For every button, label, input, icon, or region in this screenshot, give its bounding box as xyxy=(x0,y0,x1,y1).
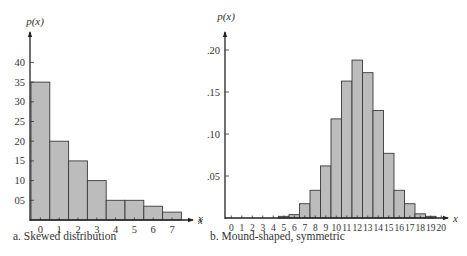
y-tick-label: 10 xyxy=(15,175,26,186)
x-tick-label: 15 xyxy=(384,223,394,233)
skewed-distribution-chart: 012345670510152025303540p(x)x xyxy=(15,15,204,235)
histogram-bar xyxy=(331,119,342,218)
histogram-bar xyxy=(373,110,384,218)
x-tick-label: 18 xyxy=(416,223,426,233)
y-tick-label: .05 xyxy=(207,171,220,182)
x-tick-label: 20 xyxy=(437,223,447,233)
y-tick-label: 20 xyxy=(15,136,26,147)
x-tick-label: 17 xyxy=(405,223,415,233)
x-tick-label: 5 xyxy=(132,224,137,235)
caption-a: a. Skewed distribution xyxy=(13,230,116,242)
x-tick-label: 19 xyxy=(426,223,436,233)
x-tick-label: 12 xyxy=(353,223,363,233)
histogram-bar xyxy=(50,141,69,220)
x-tick-label: 6 xyxy=(151,224,156,235)
histogram-bar xyxy=(384,153,395,218)
histogram-bar xyxy=(310,190,321,218)
y-tick-label: 25 xyxy=(15,116,26,127)
x-axis-arrow-icon xyxy=(443,216,449,220)
histogram-bar xyxy=(31,82,50,220)
stray-x-label: x xyxy=(197,212,203,224)
caption-b: b. Mound-shaped, symmetric xyxy=(210,230,345,242)
x-tick-label: 13 xyxy=(363,223,373,233)
histogram-bar xyxy=(352,60,363,218)
y-axis-title: p(x) xyxy=(216,10,235,23)
histogram-bar xyxy=(321,166,332,218)
y-tick-label: .10 xyxy=(207,129,220,140)
y-tick-label: .15 xyxy=(207,87,220,98)
y-tick-label: .20 xyxy=(207,45,220,56)
histogram-bar xyxy=(125,200,144,220)
histogram-bar xyxy=(106,200,125,220)
x-tick-label: 14 xyxy=(374,223,384,233)
y-tick-label: 35 xyxy=(15,77,26,88)
y-axis-arrow-icon xyxy=(28,31,32,37)
mound-shaped-chart: 01234567891011121314151617181920.05.10.1… xyxy=(207,10,458,233)
x-axis-arrow-icon xyxy=(188,218,194,222)
y-axis-arrow-icon xyxy=(223,31,227,37)
y-tick-label: 15 xyxy=(15,155,26,166)
y-tick-label: 30 xyxy=(15,96,26,107)
histogram-bar xyxy=(342,81,353,218)
histogram-bar xyxy=(69,161,88,220)
histogram-bar xyxy=(87,181,106,220)
y-tick-label: 40 xyxy=(15,57,26,68)
x-axis-title: x xyxy=(452,212,458,224)
y-tick-label: 05 xyxy=(15,195,26,206)
y-axis-title: p(x) xyxy=(25,15,44,28)
histogram-bar xyxy=(394,190,405,218)
x-tick-label: 7 xyxy=(169,224,174,235)
x-tick-label: 16 xyxy=(395,223,405,233)
histogram-bar xyxy=(363,73,374,218)
charts-canvas: 012345670510152025303540p(x)x 0123456789… xyxy=(0,0,467,256)
